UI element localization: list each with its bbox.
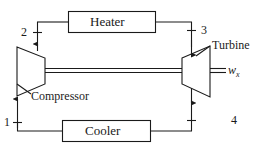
turbine-label: Turbine — [212, 39, 250, 51]
turbine-shape — [182, 46, 210, 97]
state-point-label-1: 1 — [4, 116, 10, 128]
work-symbol: w — [228, 63, 236, 77]
diagram-canvas — [0, 0, 257, 149]
state-point-label-3: 3 — [201, 24, 207, 36]
compressor-label: Compressor — [31, 90, 89, 102]
state-point-label-4: 4 — [231, 114, 237, 126]
cooler-label: Cooler — [85, 124, 120, 137]
work-subscript: x — [236, 70, 240, 79]
state-point-label-2: 2 — [21, 26, 27, 38]
heater-label: Heater — [90, 15, 125, 28]
work-output-label: wx — [228, 64, 240, 79]
brayton-cycle-diagram: Heater Cooler Compressor Turbine 1 2 3 4… — [0, 0, 257, 149]
